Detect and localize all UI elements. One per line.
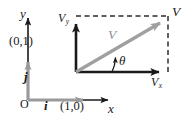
theta-angle-arc	[112, 58, 116, 73]
x-axis-label: x	[108, 102, 114, 115]
vx-subscript: x	[159, 81, 162, 90]
vector-decomposition-figure: y (0,1) j O i (1,0) x Vy Vx V V θ	[0, 0, 193, 123]
unit-vector-j-label: j	[24, 70, 28, 83]
vy-base-letter: V	[58, 11, 65, 25]
origin-label: O	[20, 98, 29, 110]
vector-body-label: V	[108, 28, 116, 42]
theta-angle-label: θ	[119, 54, 125, 67]
vector-tip-label: V	[172, 5, 180, 19]
point-1-0-label: (1,0)	[60, 100, 84, 113]
vy-component-label: Vy	[58, 12, 69, 26]
unit-vector-i-label: i	[44, 99, 48, 112]
vy-subscript: y	[66, 17, 69, 26]
vx-base-letter: V	[151, 75, 158, 89]
y-axis-label: y	[20, 7, 26, 20]
vx-component-label: Vx	[151, 76, 162, 90]
point-0-1-label: (0,1)	[9, 35, 33, 48]
resultant-vector-arrow	[76, 23, 160, 72]
